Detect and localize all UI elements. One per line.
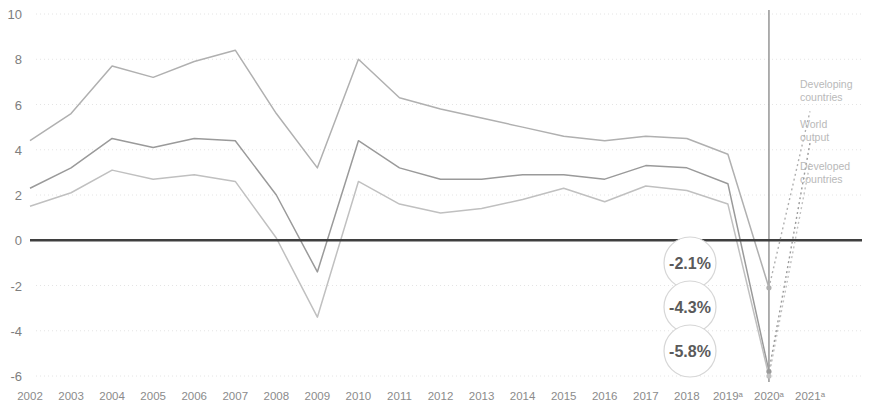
legend-label-line1: Developing	[800, 78, 853, 90]
x-tick-label: 2013	[469, 390, 495, 402]
x-tick-label: 2005	[140, 390, 166, 402]
x-tick-label: 2021ᵃ	[795, 390, 826, 402]
series-trough-point	[766, 373, 771, 378]
x-tick-label: 2019ᵃ	[713, 390, 744, 402]
legend-label-line1: World	[800, 118, 827, 130]
x-tick-label: 2016	[592, 390, 618, 402]
y-tick-label: 6	[15, 98, 22, 113]
series-trough-point	[766, 285, 771, 290]
series-trough-point	[766, 369, 771, 374]
x-tick-label: 2017	[633, 390, 659, 402]
y-tick-label: 10	[8, 7, 22, 22]
x-tick-label: 2004	[99, 390, 125, 402]
y-tick-label: 8	[15, 52, 22, 67]
y-axis-tick-labels: 1086420-2-4-6	[8, 7, 22, 384]
x-tick-label: 2002	[17, 390, 43, 402]
x-tick-label: 2003	[58, 390, 84, 402]
x-tick-label: 2012	[428, 390, 454, 402]
legend-label-line2: output	[800, 131, 829, 143]
series-line	[30, 50, 769, 288]
legend-label-line2: countries	[800, 173, 843, 185]
callout-world-label: -4.3%	[669, 299, 711, 316]
series-line	[30, 138, 769, 371]
series-line	[30, 170, 769, 376]
series-legend-labels: DevelopingcountriesWorldoutputDevelopedc…	[800, 78, 853, 185]
x-axis-tick-labels: 2002200320042005200620072008200920102011…	[17, 390, 825, 402]
y-tick-label: 0	[15, 233, 22, 248]
x-tick-label: 2008	[264, 390, 290, 402]
projection-line-group	[769, 111, 810, 376]
gridline-group	[36, 14, 862, 376]
x-tick-label: 2011	[387, 390, 412, 402]
y-tick-label: -4	[10, 324, 22, 339]
x-tick-label: 2007	[222, 390, 248, 402]
callout-developing-label: -2.1%	[669, 255, 711, 272]
x-tick-label: 2009	[305, 390, 331, 402]
legend-label-line1: Developed	[800, 160, 850, 172]
x-tick-label: 2020ᵃ	[754, 390, 785, 402]
callout-group: -2.1%-4.3%-5.8%	[664, 237, 716, 377]
x-tick-label: 2010	[346, 390, 372, 402]
x-tick-label: 2006	[181, 390, 207, 402]
legend-label-line2: countries	[800, 91, 843, 103]
y-tick-label: -6	[10, 369, 22, 384]
y-tick-label: -2	[10, 279, 22, 294]
y-tick-label: 4	[15, 143, 22, 158]
x-tick-label: 2015	[551, 390, 577, 402]
x-tick-label: 2014	[510, 390, 536, 402]
x-tick-label: 2018	[674, 390, 700, 402]
series-line-group	[30, 50, 769, 376]
y-tick-label: 2	[15, 188, 22, 203]
economic-growth-line-chart: 1086420-2-4-6 -2.1%-4.3%-5.8% Developing…	[0, 0, 875, 420]
callout-developed-label: -5.8%	[669, 343, 711, 360]
series-projection-line	[769, 163, 810, 376]
chart-container: 1086420-2-4-6 -2.1%-4.3%-5.8% Developing…	[0, 0, 875, 420]
